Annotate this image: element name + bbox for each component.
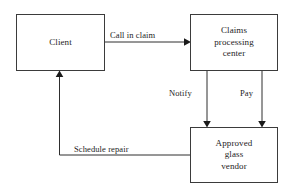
edge-label-notify: Notify [169, 88, 192, 98]
node-client[interactable]: Client [16, 14, 105, 71]
edge-notify [203, 71, 211, 128]
node-approved-glass-vendor-label: Approved glass vendor [216, 138, 253, 173]
edge-label-schedule-repair: Schedule repair [74, 144, 129, 154]
node-approved-glass-vendor[interactable]: Approved glass vendor [190, 127, 278, 183]
node-client-label: Client [49, 37, 72, 49]
edge-pay [258, 71, 266, 128]
edge-label-pay: Pay [240, 88, 253, 98]
node-claims-processing-center-label: Claims processing center [214, 25, 254, 60]
edge-schedule-repair [56, 71, 190, 156]
edge-label-call-in-claim: Call in claim [110, 30, 155, 40]
node-claims-processing-center[interactable]: Claims processing center [190, 14, 278, 71]
flowchart-canvas: Client Claims processing center Approved… [0, 0, 294, 196]
arrowhead-icon [56, 71, 64, 78]
